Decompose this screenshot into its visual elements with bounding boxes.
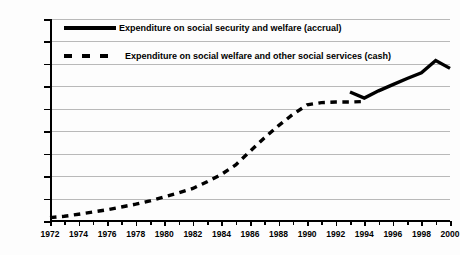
series-line-accrual [350,61,450,99]
legend-label-cash: Expenditure on social welfare and other … [125,51,391,61]
legend-swatch-solid-icon [64,26,116,30]
legend-item-accrual: Expenditure on social security and welfa… [64,18,391,38]
legend-item-cash: Expenditure on social welfare and other … [64,46,391,66]
series-line-cash [50,101,364,217]
chart-legend: Expenditure on social security and welfa… [64,18,391,66]
legend-swatch-dashed-icon [64,54,116,58]
legend-label-accrual: Expenditure on social security and welfa… [119,23,342,33]
chart-container: 02,0004,0006,0008,00010,00012,00014,0001… [0,0,460,255]
